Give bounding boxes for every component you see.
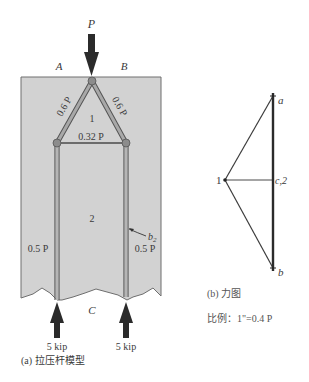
- load-arrow-down-icon: [84, 34, 99, 76]
- point-1-label: 1: [216, 174, 222, 186]
- concrete-block: [21, 77, 161, 300]
- tie-force-label: 0.32 P: [78, 131, 104, 142]
- load-label: P: [87, 17, 96, 31]
- post-left-force: 0.5 P: [28, 243, 49, 254]
- strut-and-tie-figure: P A B 0.6 P 0.6 P 1 2 0.32 P 0.5 P 0.5 P…: [0, 0, 309, 382]
- post-right: [124, 143, 128, 297]
- point-a-label: a: [278, 94, 284, 106]
- reaction-right-label: 5 kip: [116, 341, 136, 352]
- region-1-label: 1: [90, 113, 95, 124]
- corner-label-a: A: [55, 60, 63, 72]
- post-left: [55, 143, 59, 300]
- force-line-a-1: [225, 96, 273, 180]
- post-right-force: 0.5 P: [135, 243, 156, 254]
- point-1-dot: [223, 178, 227, 182]
- reaction-left-label: 5 kip: [47, 341, 67, 352]
- panel-a-strut-tie-model: P A B 0.6 P 0.6 P 1 2 0.32 P 0.5 P 0.5 P…: [21, 17, 161, 367]
- scale-note: 比例：1"=0.4 P: [207, 312, 273, 324]
- node-left: [53, 139, 61, 147]
- caption-b: (b) 力图: [207, 287, 241, 300]
- node-top: [88, 77, 96, 85]
- panel-b-force-diagram: a 1 c,2 b (b) 力图 比例：1"=0.4 P: [207, 93, 287, 324]
- bottom-label-c: C: [88, 304, 96, 316]
- node-right: [122, 139, 130, 147]
- point-b-label: b: [278, 266, 284, 278]
- region-2-label: 2: [90, 213, 95, 224]
- corner-label-b: B: [121, 60, 128, 72]
- force-line-1-b: [225, 180, 273, 268]
- reaction-arrow-left-up-icon: [50, 302, 64, 338]
- reaction-arrow-right-up-icon: [119, 302, 133, 338]
- caption-a: (a) 拉压杆模型: [21, 354, 85, 367]
- point-c2-label: c,2: [275, 175, 287, 186]
